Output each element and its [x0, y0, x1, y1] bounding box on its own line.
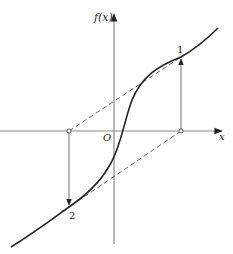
axis-point-right: [179, 129, 183, 133]
x-axis-label: x: [219, 131, 225, 142]
point-1-label: 1: [177, 44, 183, 55]
dashed-guide-lower: [69, 131, 181, 207]
axis-point-left: [67, 129, 71, 133]
diagram-canvas: f(x) x O 1 2: [0, 0, 233, 254]
y-axis-label: f(x): [93, 11, 113, 24]
origin-label: O: [103, 132, 111, 143]
point-2-label: 2: [69, 210, 75, 221]
